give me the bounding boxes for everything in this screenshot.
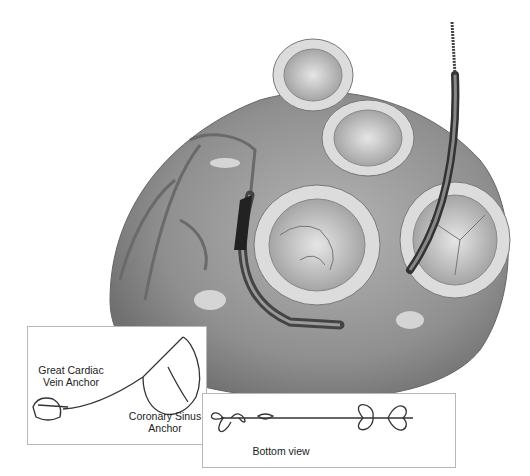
great-cardiac-vein-anchor-label: Great Cardiac Vein Anchor	[32, 364, 110, 388]
inset-side-view: Great Cardiac Vein Anchor Coronary Sinus…	[27, 326, 207, 445]
bottom-view-label: Bottom view	[241, 445, 321, 457]
guidewire	[452, 22, 455, 75]
valve-middle	[322, 100, 414, 176]
inset-bottom-view: Bottom view	[202, 393, 456, 468]
valve-mitral	[254, 185, 380, 305]
valve-top	[273, 39, 353, 111]
coronary-sinus-anchor-label: Coronary Sinus Anchor	[122, 410, 208, 434]
valve-tricuspid	[400, 182, 510, 298]
